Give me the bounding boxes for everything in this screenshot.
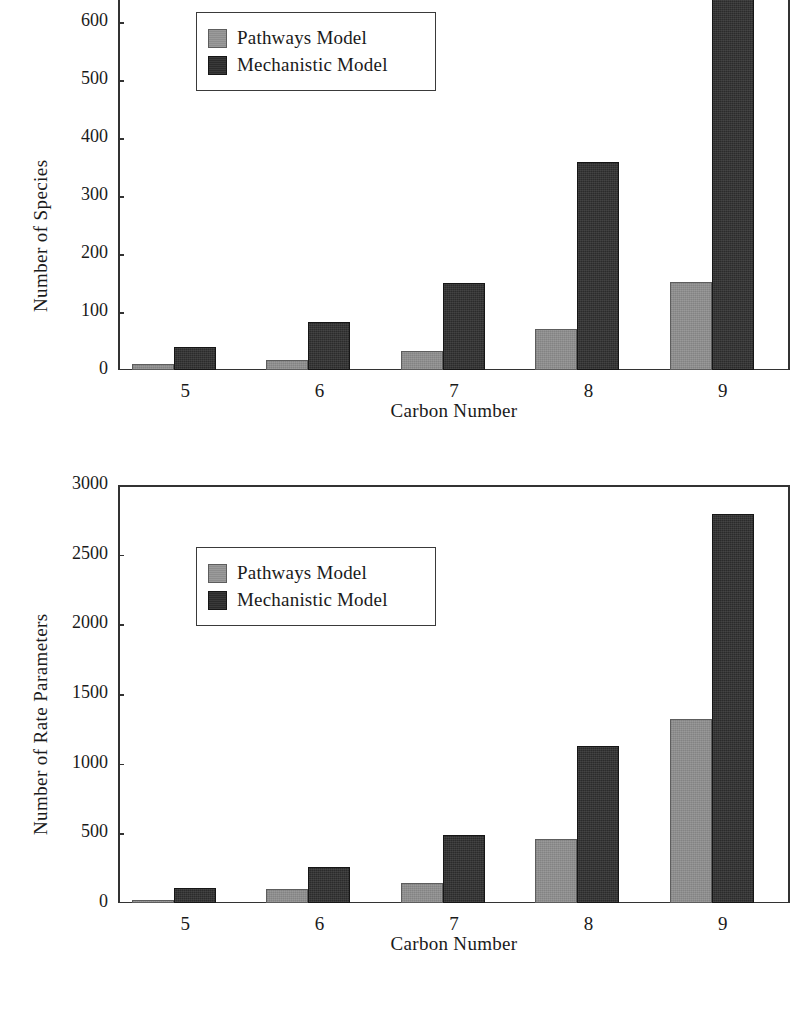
y-tick [118,196,124,198]
x-tick-label: 9 [693,913,753,935]
bar-mech-c5 [174,888,216,903]
legend-swatch-pathways-icon [208,564,227,583]
figure-two-bar-charts: Number of Species Carbon Number Pathways… [0,0,808,1013]
x-tick [521,902,523,903]
y-tick-label: 300 [38,184,108,205]
legend-label-pathways: Pathways Model [237,27,367,49]
x-tick [252,902,254,903]
right-spine [788,0,790,370]
legend-swatch-mechanistic-icon [208,591,227,610]
bar-path-c5 [132,900,174,903]
x-tick [387,902,389,903]
y-axis-label-rate-parameters: Number of Rate Parameters [30,613,52,835]
x-tick-label: 8 [558,913,618,935]
bar-mech-c5 [174,347,216,370]
x-tick-label: 7 [424,380,484,402]
legend-item-pathways: Pathways Model [208,27,421,49]
bar-mech-c8 [577,746,619,903]
x-tick-label: 7 [424,913,484,935]
bar-mech-c6 [308,867,350,904]
y-tick-label: 500 [38,68,108,89]
bar-path-c5 [132,364,174,370]
bar-mech-c7 [443,283,485,370]
y-tick-label: 600 [38,10,108,31]
y-tick [118,22,124,24]
legend-label-mechanistic: Mechanistic Model [237,54,388,76]
legend-item-mechanistic: Mechanistic Model [208,589,421,611]
x-tick-label: 5 [155,380,215,402]
y-tick-label: 500 [38,821,108,842]
legend-rate-parameters: Pathways Model Mechanistic Model [196,547,436,626]
bar-mech-c9 [712,0,754,370]
y-axis-label-species: Number of Species [30,160,52,312]
y-tick [118,694,124,696]
chart-number-of-species: Number of Species Carbon Number Pathways… [0,0,808,440]
x-axis-label-carbon-number-bottom: Carbon Number [118,933,790,955]
y-tick [118,624,124,626]
legend-species: Pathways Model Mechanistic Model [196,12,436,91]
y-tick-label: 200 [38,242,108,263]
y-tick-label: 0 [38,358,108,379]
y-tick [118,138,124,140]
bar-path-c7 [401,351,443,370]
bar-path-c8 [535,839,577,903]
legend-swatch-mechanistic-icon [208,56,227,75]
x-tick-label: 6 [290,913,350,935]
bar-path-c9 [670,719,712,903]
bar-path-c8 [535,329,577,370]
x-tick [656,369,658,370]
bar-path-c6 [266,360,308,370]
y-tick [118,254,124,256]
legend-label-pathways: Pathways Model [237,562,367,584]
y-tick-label: 2000 [38,612,108,633]
bar-mech-c9 [712,514,754,903]
y-axis-line [118,0,120,370]
x-tick [387,369,389,370]
legend-label-mechanistic: Mechanistic Model [237,589,388,611]
y-tick [118,764,124,766]
y-tick-label: 0 [38,891,108,912]
x-tick-label: 8 [558,380,618,402]
y-tick [118,80,124,82]
chart-number-of-rate-parameters: Number of Rate Parameters Carbon Number … [0,440,808,1000]
legend-item-mechanistic: Mechanistic Model [208,54,421,76]
bar-path-c6 [266,889,308,903]
bar-mech-c6 [308,322,350,370]
x-tick-label: 5 [155,913,215,935]
legend-item-pathways: Pathways Model [208,562,421,584]
x-tick [252,369,254,370]
y-tick-label: 400 [38,126,108,147]
x-axis-label-carbon-number-top: Carbon Number [118,400,790,422]
top-spine [118,485,790,487]
caption-sliver [0,1003,808,1013]
y-tick [118,555,124,557]
bar-path-c7 [401,883,443,903]
bar-mech-c8 [577,162,619,370]
y-tick [118,833,124,835]
y-tick-label: 1500 [38,682,108,703]
y-tick-label: 1000 [38,752,108,773]
right-spine [788,485,790,903]
bar-path-c9 [670,282,712,370]
y-tick-label: 2500 [38,543,108,564]
legend-swatch-pathways-icon [208,29,227,48]
bar-mech-c7 [443,835,485,903]
y-tick-label: 3000 [38,473,108,494]
x-tick-label: 9 [693,380,753,402]
y-tick [118,312,124,314]
x-tick-label: 6 [290,380,350,402]
x-tick [521,369,523,370]
y-tick [118,485,124,487]
x-tick [656,902,658,903]
y-tick-label: 100 [38,300,108,321]
